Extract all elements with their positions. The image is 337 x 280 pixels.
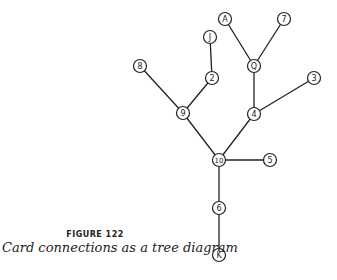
node-J: J (204, 31, 217, 44)
edge-7-Q (254, 19, 284, 66)
node-4: 4 (248, 108, 261, 121)
edge-3-4 (254, 78, 314, 114)
edge-8-9 (140, 66, 183, 113)
edge-9-10 (183, 113, 219, 160)
node-7: 7 (278, 13, 291, 26)
edge-A-Q (225, 19, 254, 66)
svg-text:8: 8 (137, 62, 142, 71)
svg-text:9: 9 (180, 109, 185, 118)
node-5: 5 (264, 154, 277, 167)
node-A: A (219, 13, 232, 26)
node-6: 6 (213, 202, 226, 215)
svg-text:10: 10 (215, 157, 224, 165)
figure-caption: Card connections as a tree diagram (2, 240, 238, 255)
node-3: 3 (308, 72, 321, 85)
edge-4-10 (219, 114, 254, 160)
nodes: A7JQ823941056K (134, 13, 321, 262)
svg-text:2: 2 (209, 74, 214, 83)
svg-text:7: 7 (281, 15, 286, 24)
node-9: 9 (177, 107, 190, 120)
node-8: 8 (134, 60, 147, 73)
edges (140, 19, 314, 255)
node-2: 2 (206, 72, 219, 85)
node-Q: Q (248, 60, 261, 73)
svg-text:J: J (208, 33, 211, 42)
node-10: 10 (213, 154, 226, 167)
figure-number: FIGURE 122 (0, 230, 190, 239)
svg-text:4: 4 (251, 110, 256, 119)
svg-text:Q: Q (251, 62, 257, 71)
svg-text:A: A (222, 15, 228, 24)
svg-text:6: 6 (216, 204, 221, 213)
svg-text:5: 5 (267, 156, 272, 165)
svg-text:3: 3 (311, 74, 316, 83)
